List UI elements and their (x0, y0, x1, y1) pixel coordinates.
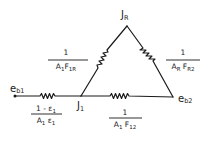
wire-J1-eb2 (81, 94, 173, 99)
wire-JR-eb2 (127, 26, 173, 97)
fraction-numerator: 1 (181, 48, 186, 57)
node-label-JR: JR (120, 9, 129, 22)
fraction-denominator: A1 F12 (114, 120, 136, 130)
wire-J1-JR (81, 26, 127, 96)
resistance-label-J1-JR: 1 A1F1R (48, 48, 88, 72)
fraction-numerator: 1 - ε1 (36, 104, 56, 114)
wires (15, 26, 173, 99)
node-label-eb1: eb1 (10, 83, 24, 95)
wire-eb1-J1 (15, 94, 81, 99)
radiation-network-diagram: JR eb1 J1 eb2 1 - ε1 A1 ε1 1 A1F1R 1 AR … (0, 0, 214, 144)
fraction-numerator: 1 (123, 108, 128, 117)
fraction-numerator: 1 (64, 48, 69, 57)
resistance-label-eb1-J1: 1 - ε1 A1 ε1 (31, 104, 62, 126)
resistance-label-JR-eb2: 1 AR FR2 (166, 48, 200, 72)
resistance-label-J1-eb2: 1 A1 F12 (109, 108, 142, 130)
node-label-eb2: eb2 (178, 93, 192, 105)
fraction-denominator: AR FR2 (172, 62, 195, 72)
fraction-denominator: A1F1R (56, 62, 76, 72)
fraction-denominator: A1 ε1 (37, 116, 56, 126)
node-label-J1: J1 (76, 100, 84, 113)
